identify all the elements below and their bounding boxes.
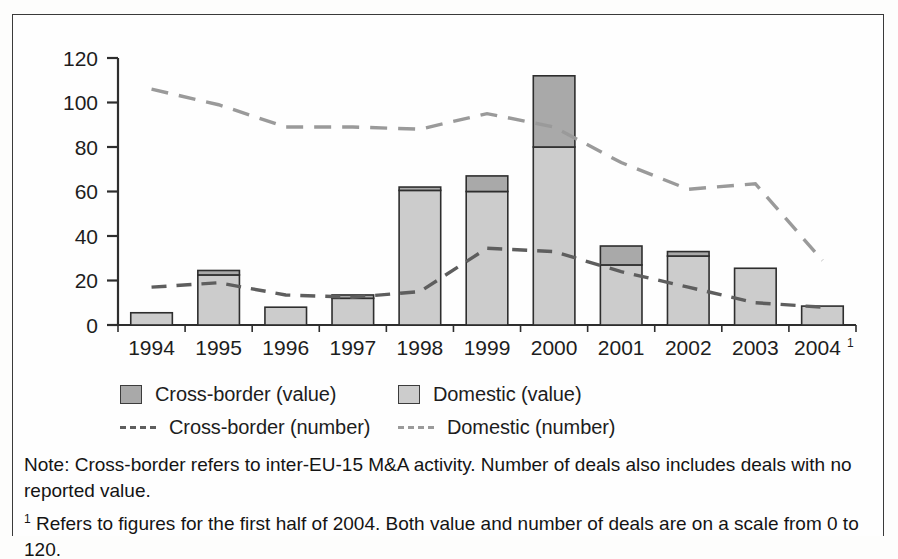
x-axis-tick-label: 1998	[397, 336, 444, 359]
x-axis-tick-label-group: 1995	[195, 336, 242, 359]
bar-cross-border-value	[198, 270, 240, 274]
x-axis-tick-label-group: 20041	[794, 336, 854, 359]
x-axis-tick-label: 2004	[794, 336, 841, 359]
x-axis-tick-label: 1999	[464, 336, 511, 359]
x-axis-tick-superscript: 1	[847, 336, 854, 350]
legend-swatch-cross-border-icon	[120, 385, 142, 404]
x-axis-tick-label: 1994	[128, 336, 175, 359]
bar-cross-border-value	[399, 187, 441, 190]
y-axis-tick-label: 40	[75, 225, 98, 248]
bar-domestic-value	[332, 298, 374, 325]
x-axis-tick-label: 1996	[262, 336, 309, 359]
legend-item-cross-border-number: Cross-border (number)	[120, 416, 398, 439]
x-axis-tick-label: 2002	[665, 336, 712, 359]
legend-item-domestic-number: Domestic (number)	[398, 416, 615, 439]
legend-dash-cross-border-icon	[120, 426, 156, 429]
footnote-marker: 1	[24, 512, 31, 526]
legend-item-cross-border-value: Cross-border (value)	[120, 383, 398, 406]
bar-cross-border-value	[667, 252, 709, 256]
bar-cross-border-value	[466, 176, 508, 192]
bar-domestic-value	[399, 190, 441, 325]
x-axis-tick-label-group: 2001	[598, 336, 645, 359]
bar-cross-border-value	[600, 246, 642, 265]
y-axis-tick-label: 80	[75, 136, 98, 159]
legend-item-domestic-value: Domestic (value)	[398, 383, 581, 406]
legend-row-values: Cross-border (value) Domestic (value)	[12, 378, 884, 411]
plot-area: 0204060801001201994199519961997199819992…	[0, 0, 898, 370]
chart-svg: 0204060801001201994199519961997199819992…	[0, 0, 898, 370]
y-axis-tick-label: 120	[63, 47, 98, 70]
y-axis-tick-label: 100	[63, 91, 98, 114]
chart-notes: Note: Cross-border refers to inter-EU-15…	[24, 452, 876, 559]
x-axis-tick-label-group: 2002	[665, 336, 712, 359]
figure-container: 0204060801001201994199519961997199819992…	[0, 0, 898, 559]
x-axis-tick-label-group: 1999	[464, 336, 511, 359]
bar-domestic-value	[802, 306, 844, 325]
bar-domestic-value	[131, 313, 173, 325]
legend-label-domestic-value: Domestic (value)	[433, 383, 581, 406]
bar-domestic-value	[533, 147, 575, 325]
legend-row-numbers: Cross-border (number) Domestic (number)	[12, 411, 884, 444]
bar-domestic-value	[735, 268, 777, 325]
x-axis-tick-label: 1995	[195, 336, 242, 359]
legend-label-cross-border-value: Cross-border (value)	[155, 383, 336, 406]
x-axis-tick-label-group: 2003	[732, 336, 779, 359]
x-axis-tick-label: 1997	[329, 336, 376, 359]
y-axis-tick-label: 20	[75, 269, 98, 292]
legend-dash-domestic-icon	[398, 426, 434, 429]
footnote-text: 1 Refers to figures for the first half o…	[24, 506, 876, 559]
bar-domestic-value	[667, 256, 709, 325]
y-axis-tick-label: 0	[86, 314, 98, 337]
y-axis-tick-label: 60	[75, 180, 98, 203]
x-axis-tick-label: 2000	[531, 336, 578, 359]
legend-swatch-domestic-icon	[398, 385, 420, 404]
legend-label-domestic-number: Domestic (number)	[447, 416, 615, 439]
footnote-body: Refers to figures for the first half of …	[24, 513, 859, 559]
x-axis-tick-label-group: 1996	[262, 336, 309, 359]
bar-domestic-value	[265, 307, 307, 325]
x-axis-tick-label-group: 1997	[329, 336, 376, 359]
x-axis-tick-label: 2003	[732, 336, 779, 359]
x-axis-tick-label-group: 1998	[397, 336, 444, 359]
chart-legend: Cross-border (value) Domestic (value) Cr…	[12, 378, 884, 444]
x-axis-tick-label-group: 1994	[128, 336, 175, 359]
x-axis-tick-label-group: 2000	[531, 336, 578, 359]
note-text: Note: Cross-border refers to inter-EU-15…	[24, 452, 876, 504]
legend-label-cross-border-number: Cross-border (number)	[169, 416, 370, 439]
x-axis-tick-label: 2001	[598, 336, 645, 359]
